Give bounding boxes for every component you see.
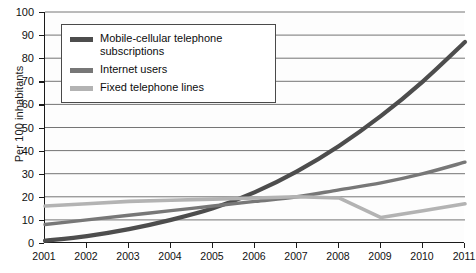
x-tick-label: 2005: [200, 250, 223, 262]
x-tick-mark: [128, 243, 129, 248]
y-tick-label: 50: [8, 122, 34, 134]
y-tick-mark: [39, 12, 44, 13]
x-tick-label: 2001: [32, 250, 55, 262]
legend-label-fixed-telephone-lines: Fixed telephone lines: [100, 81, 204, 94]
x-tick-mark: [380, 243, 381, 248]
legend-swatch-internet-users: [70, 68, 93, 73]
y-tick-label: 60: [8, 98, 34, 110]
x-tick-mark: [254, 243, 255, 248]
y-tick-mark: [39, 58, 44, 59]
y-tick-mark: [39, 128, 44, 129]
legend-label-internet-users: Internet users: [100, 63, 167, 76]
y-tick-mark: [39, 151, 44, 152]
y-tick-mark: [39, 81, 44, 82]
x-tick-mark: [464, 243, 465, 248]
y-tick-label: 100: [8, 6, 34, 18]
x-tick-mark: [296, 243, 297, 248]
x-tick-mark: [212, 243, 213, 248]
chart-legend: Mobile-cellular telephone subscriptions …: [61, 24, 276, 103]
y-tick-label: 20: [8, 191, 34, 203]
y-tick-mark: [39, 174, 44, 175]
x-tick-label: 2004: [158, 250, 181, 262]
y-tick-mark: [39, 197, 44, 198]
x-tick-label: 2009: [368, 250, 391, 262]
x-tick-mark: [338, 243, 339, 248]
legend-swatch-mobile-cellular: [70, 37, 93, 42]
y-tick-label: 90: [8, 29, 34, 41]
y-tick-label: 70: [8, 75, 34, 87]
y-axis-tick-labels: 0102030405060708090100: [6, 0, 34, 273]
y-tick-mark: [39, 220, 44, 221]
legend-swatch-fixed-telephone-lines: [70, 86, 93, 91]
x-tick-label: 2006: [242, 250, 265, 262]
legend-item: Fixed telephone lines: [70, 81, 265, 94]
x-tick-label: 2011: [453, 250, 476, 262]
y-tick-mark: [39, 35, 44, 36]
y-tick-label: 40: [8, 145, 34, 157]
x-tick-label: 2002: [74, 250, 97, 262]
x-tick-label: 2007: [284, 250, 307, 262]
x-tick-mark: [170, 243, 171, 248]
y-tick-mark: [39, 104, 44, 105]
legend-item: Internet users: [70, 63, 265, 76]
y-tick-label: 0: [8, 237, 34, 249]
x-tick-mark: [86, 243, 87, 248]
x-tick-mark: [422, 243, 423, 248]
y-tick-label: 80: [8, 52, 34, 64]
line-chart: Per 100 inhabitants 01020304050607080901…: [0, 0, 476, 273]
plot-area: Mobile-cellular telephone subscriptions …: [44, 12, 464, 243]
x-tick-label: 2003: [116, 250, 139, 262]
x-tick-label: 2008: [326, 250, 349, 262]
y-tick-mark: [39, 243, 44, 244]
x-tick-label: 2010: [410, 250, 433, 262]
y-tick-label: 30: [8, 168, 34, 180]
y-tick-label: 10: [8, 214, 34, 226]
legend-item: Mobile-cellular telephone subscriptions: [70, 32, 265, 58]
legend-label-mobile-cellular: Mobile-cellular telephone subscriptions: [100, 32, 265, 58]
